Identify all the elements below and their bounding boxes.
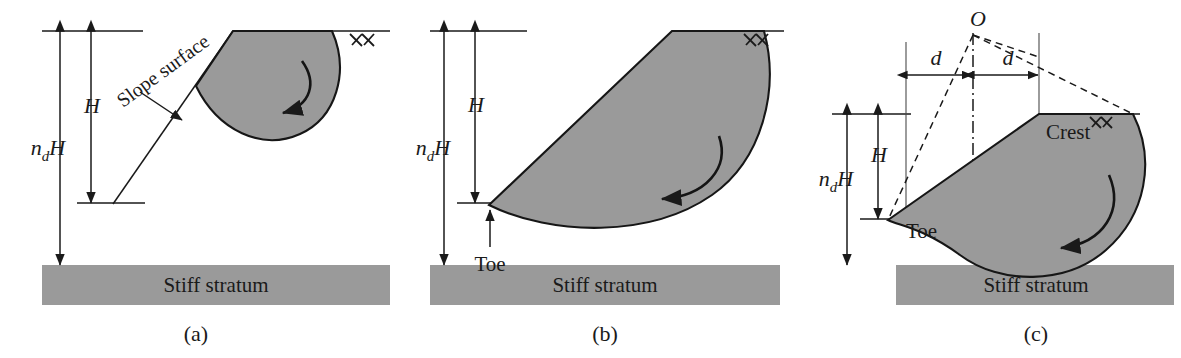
toe-label-b: Toe	[474, 252, 505, 276]
h-label-c: H	[870, 142, 888, 167]
ground-hatch-symbol-a	[350, 34, 374, 46]
panel-caption-a: (a)	[184, 321, 208, 346]
toe-label-c: Toe	[906, 219, 937, 243]
center-of-rotation-label-c: O	[970, 6, 986, 31]
panel-caption-c: (c)	[1024, 321, 1048, 346]
failure-mass-a	[196, 31, 340, 140]
stiff-stratum-label-b: Stiff stratum	[552, 273, 657, 297]
failure-mass-c	[888, 114, 1145, 277]
slope-failure-figure: Stiff stratum ndH H Slope surface (a	[0, 0, 1181, 358]
failure-mass-b	[489, 31, 770, 228]
slope-surface-label-a: Slope surface	[112, 30, 213, 112]
h-label-b: H	[467, 92, 485, 117]
d-right-label-c: d	[1003, 45, 1015, 70]
stiff-stratum-label-a: Stiff stratum	[163, 273, 268, 297]
ndh-label-a: ndH	[31, 135, 67, 164]
ndh-label-b: ndH	[416, 135, 452, 164]
slope-surface-leader-a	[140, 92, 182, 120]
panel-b-toe-failure: Stiff stratum ndH H Toe (b)	[392, 0, 792, 358]
panel-c-base-failure: Stiff stratum ndH H O d d	[788, 0, 1181, 358]
d-left-label-c: d	[931, 45, 943, 70]
panel-a-slope-failure: Stiff stratum ndH H Slope surface (a	[0, 0, 400, 358]
crest-label-c: Crest	[1046, 120, 1090, 144]
ndh-label-c: ndH	[819, 166, 855, 195]
panel-caption-b: (b)	[592, 321, 618, 346]
h-label-a: H	[83, 93, 101, 118]
